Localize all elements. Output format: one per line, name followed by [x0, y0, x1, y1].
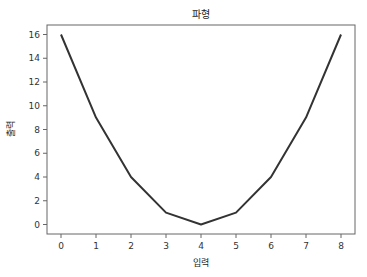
x-tick-label: 7	[303, 241, 309, 251]
x-tick-label: 6	[268, 241, 274, 251]
y-tick-label: 4	[34, 172, 40, 182]
line-chart: 파형 012345678 0246810121416 입력 출력	[0, 0, 367, 277]
x-tick-label: 5	[233, 241, 239, 251]
y-tick-label: 14	[29, 53, 41, 63]
y-tick-label: 0	[34, 220, 40, 230]
y-tick-label: 16	[29, 30, 41, 40]
chart-title: 파형	[192, 9, 210, 20]
x-axis-ticks: 012345678	[58, 234, 344, 251]
y-tick-label: 8	[34, 125, 40, 135]
x-tick-label: 1	[93, 241, 99, 251]
y-tick-label: 6	[34, 148, 40, 158]
y-tick-label: 12	[29, 77, 40, 87]
y-tick-label: 2	[34, 196, 40, 206]
x-tick-label: 4	[198, 241, 204, 251]
x-tick-label: 3	[163, 241, 169, 251]
x-tick-label: 0	[58, 241, 64, 251]
plot-area	[61, 35, 341, 225]
data-line	[61, 35, 341, 225]
y-tick-label: 10	[29, 101, 41, 111]
x-tick-label: 2	[128, 241, 134, 251]
axes-frame	[47, 25, 355, 234]
y-axis-ticks: 0246810121416	[29, 30, 47, 230]
y-axis-label: 출력	[5, 121, 16, 137]
x-axis-label: 입력	[193, 257, 209, 268]
x-tick-label: 8	[338, 241, 344, 251]
